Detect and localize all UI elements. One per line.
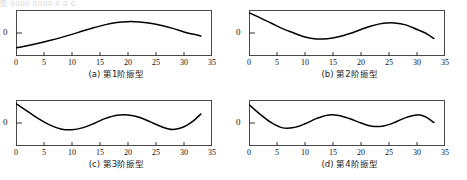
x-tick-label: 35 — [208, 147, 216, 158]
panel-caption-mode3: (c) 第3阶振型 — [0, 158, 233, 170]
x-tick-label: 20 — [124, 147, 132, 158]
plot-frame — [17, 11, 212, 56]
plot-svg-mode2 — [249, 10, 445, 56]
x-tick-label: 15 — [96, 147, 104, 158]
x-tick-label: 25 — [152, 147, 160, 158]
mode-shape-curve — [249, 105, 434, 129]
x-tick-label: 30 — [180, 57, 188, 68]
x-tick-label: 0 — [14, 57, 18, 68]
x-tick-label: 10 — [301, 147, 309, 158]
x-tick-label: 30 — [413, 147, 421, 158]
y-axis-zero-label: 0 — [236, 27, 241, 37]
plot-svg-mode4 — [249, 100, 445, 146]
x-tick-label: 25 — [385, 57, 393, 68]
x-tick-label: 15 — [329, 57, 337, 68]
x-tick-label: 5 — [275, 57, 279, 68]
x-axis-tick-labels-mode3: 05101520253035 — [16, 147, 212, 158]
plot-area-mode3 — [16, 100, 212, 146]
x-tick-label: 10 — [68, 57, 76, 68]
x-tick-label: 30 — [413, 57, 421, 68]
x-tick-label: 5 — [275, 147, 279, 158]
panel-mode3: 0 05101520253035 (c) 第3阶振型 — [0, 90, 233, 180]
plot-svg-mode3 — [16, 100, 212, 146]
x-tick-label: 0 — [247, 57, 251, 68]
y-axis-zero-label: 0 — [3, 27, 8, 37]
plot-frame — [250, 11, 445, 56]
x-tick-label: 15 — [329, 147, 337, 158]
x-axis-tick-labels-mode2: 05101520253035 — [249, 57, 445, 68]
plot-frame — [250, 101, 445, 146]
x-tick-label: 35 — [208, 57, 216, 68]
y-axis-zero-label: 0 — [236, 117, 241, 127]
panel-mode1: 0 05101520253035 (a) 第1阶振型 — [0, 0, 233, 90]
x-tick-label: 25 — [385, 147, 393, 158]
x-tick-label: 25 — [152, 57, 160, 68]
x-axis-tick-labels-mode4: 05101520253035 — [249, 147, 445, 158]
mode-shape-curve — [249, 13, 434, 39]
x-tick-label: 15 — [96, 57, 104, 68]
plot-area-mode1 — [16, 10, 212, 56]
plot-svg-mode1 — [16, 10, 212, 56]
x-tick-label: 35 — [441, 147, 449, 158]
panel-caption-mode2: (b) 第2阶振型 — [233, 68, 466, 80]
x-tick-label: 0 — [14, 147, 18, 158]
panel-caption-mode4: (d) 第4阶振型 — [233, 158, 466, 170]
panel-mode4: 0 05101520253035 (d) 第4阶振型 — [233, 90, 466, 180]
x-tick-label: 5 — [42, 147, 46, 158]
x-tick-label: 35 — [441, 57, 449, 68]
plot-area-mode4 — [249, 100, 445, 146]
x-tick-label: 20 — [357, 147, 365, 158]
x-tick-label: 20 — [124, 57, 132, 68]
x-tick-label: 20 — [357, 57, 365, 68]
panel-mode2: 0 05101520253035 (b) 第2阶振型 — [233, 0, 466, 90]
plot-area-mode2 — [249, 10, 445, 56]
x-tick-label: 5 — [42, 57, 46, 68]
x-axis-tick-labels-mode1: 05101520253035 — [16, 57, 212, 68]
panel-caption-mode1: (a) 第1阶振型 — [0, 68, 233, 80]
mode-shape-curve — [16, 104, 201, 130]
x-tick-label: 0 — [247, 147, 251, 158]
x-tick-label: 10 — [301, 57, 309, 68]
x-tick-label: 30 — [180, 147, 188, 158]
x-tick-label: 10 — [68, 147, 76, 158]
y-axis-zero-label: 0 — [3, 117, 8, 127]
mode-shape-curve — [16, 22, 201, 48]
mode-shape-figure-grid: 0 05101520253035 (a) 第1阶振型 0 05101520253… — [0, 0, 467, 180]
